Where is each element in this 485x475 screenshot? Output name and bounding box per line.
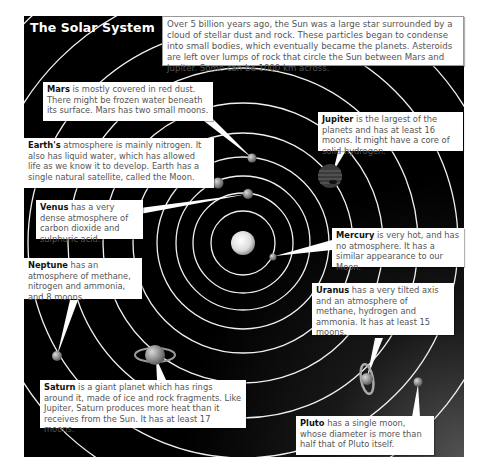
planet-name: Mercury xyxy=(336,230,374,240)
venus-planet xyxy=(243,189,253,199)
callout-earth: Earth's atmosphere is mainly nitrogen. I… xyxy=(24,138,214,188)
neptune-planet xyxy=(52,351,62,361)
callout-saturn: Saturn is a giant planet which has rings… xyxy=(40,380,246,428)
uranus-planet xyxy=(358,363,375,395)
callout-pluto: Pluto has a single moon, whose diameter … xyxy=(296,416,434,455)
planet-name: Pluto xyxy=(300,418,325,428)
planet-name: Neptune xyxy=(28,260,68,270)
callout-uranus: Uranus has a very tilted axis and an atm… xyxy=(312,283,454,335)
mercury-planet xyxy=(270,254,277,261)
planet-name: Uranus xyxy=(316,285,349,295)
intro-text: Over 5 billion years ago, the Sun was a … xyxy=(162,16,464,66)
callout-jupiter: Jupiter is the largest of the planets an… xyxy=(318,112,463,151)
sun xyxy=(231,231,255,255)
planet-description: is mostly covered in red dust. There mig… xyxy=(47,84,208,115)
planet-name: Mars xyxy=(47,84,70,94)
planet-name: Earth's xyxy=(28,140,61,150)
mars-planet xyxy=(248,154,257,163)
planet-name: Venus xyxy=(40,202,68,212)
callout-neptune: Neptune has an atmosphere of methane, ni… xyxy=(24,258,142,299)
planet-name: Jupiter xyxy=(322,114,353,124)
planet-name: Saturn xyxy=(44,382,75,392)
jupiter-planet xyxy=(318,164,342,188)
diagram-title: The Solar System xyxy=(30,20,155,35)
callout-mercury: Mercury is very hot, and has no atmosphe… xyxy=(332,228,464,267)
callout-venus: Venus has a very dense atmosphere of car… xyxy=(36,200,143,239)
pluto-planet xyxy=(414,378,423,387)
callout-mars: Mars is mostly covered in red dust. Ther… xyxy=(43,82,213,121)
earth-planet xyxy=(213,178,224,189)
